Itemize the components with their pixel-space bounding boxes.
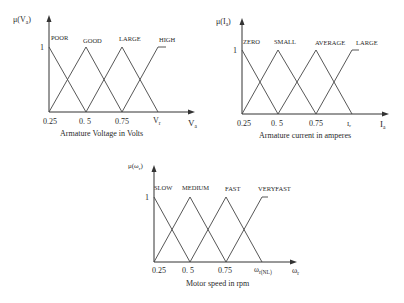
y-tick-1: 1 (145, 193, 149, 202)
x-axis-symbol: Va (188, 118, 198, 129)
x-axis-arrow-icon (290, 260, 297, 265)
mf-medium (154, 197, 226, 262)
set-label-good: GOOD (83, 37, 102, 44)
set-label-zero: ZERO (243, 38, 260, 45)
y-axis-label: μ(Ia) (216, 17, 231, 27)
set-label-high: HIGH (159, 36, 176, 43)
x-tick-3: Ir (347, 120, 351, 128)
set-label-poor: POOR (51, 34, 69, 41)
set-label-fast: FAST (225, 185, 240, 192)
x-tick-3: ωr(NL) (254, 265, 272, 276)
x-axis-symbol: ωr (292, 266, 299, 276)
y-axis-arrow-icon (47, 15, 52, 22)
set-label-large: LARGE (356, 39, 378, 46)
mf-veryfast (226, 197, 268, 262)
chart-armature-voltage: μ(Va) 1 POOR GOOD LARGE HIGH 0.25 0. 5 0… (13, 15, 198, 138)
mf-fast (190, 197, 262, 262)
mf-average (278, 50, 352, 114)
y-axis-arrow-icon (152, 165, 157, 172)
y-tick-1: 1 (233, 46, 237, 55)
mf-large (316, 50, 359, 114)
x-axis-arrow-icon (382, 112, 389, 117)
set-label-average: AVERAGE (315, 39, 345, 46)
chart-caption: Motor speed in rpm (186, 279, 250, 288)
x-tick-2: 0.75 (115, 117, 129, 126)
y-axis-arrow-icon (240, 18, 245, 25)
set-label-small: SMALL (274, 38, 296, 45)
x-axis-symbol: Ia (380, 119, 386, 130)
chart-caption: Armature current in amperes (259, 131, 351, 140)
x-tick-1: 0. 5 (79, 117, 91, 126)
y-axis-label: μ(ωr) (128, 162, 143, 171)
mf-good (49, 47, 122, 112)
chart-caption: Armature Voltage in Volts (60, 129, 143, 138)
x-tick-0: 0.25 (237, 119, 251, 128)
set-label-veryfast: VERYFAST (258, 185, 291, 192)
x-tick-3: Vr (153, 116, 161, 126)
y-axis-label: μ(Va) (13, 15, 31, 25)
set-label-medium: MEDIUM (182, 184, 209, 191)
mf-large (86, 47, 158, 112)
x-tick-2: 0.75 (309, 119, 323, 128)
set-label-slow: SLOW (154, 184, 173, 191)
x-tick-1: 0. 5 (271, 119, 283, 128)
mf-high (122, 47, 166, 112)
chart-armature-current: μ(Ia) 1 ZERO SMALL AVERAGE LARGE 0.25 0.… (216, 17, 389, 140)
x-axis-arrow-icon (188, 110, 195, 115)
x-tick-2: 0.75 (218, 266, 232, 275)
x-tick-0: 0.25 (152, 266, 166, 275)
y-tick-1: 1 (40, 43, 44, 52)
fuzzy-membership-diagram: μ(Va) 1 POOR GOOD LARGE HIGH 0.25 0. 5 0… (0, 0, 404, 303)
x-tick-0: 0.25 (43, 117, 57, 126)
x-tick-1: 0. 5 (182, 266, 194, 275)
mf-small (242, 50, 316, 114)
set-label-large: LARGE (119, 35, 141, 42)
chart-motor-speed: μ(ωr) 1 SLOW MEDIUM FAST VERYFAST 0.25 0… (128, 162, 299, 288)
